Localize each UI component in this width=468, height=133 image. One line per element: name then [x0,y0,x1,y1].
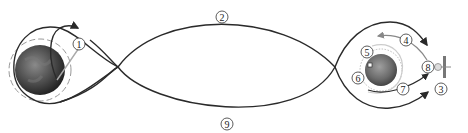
label-9: 9 [221,118,233,130]
svg-text:2: 2 [220,12,225,23]
label-5: 5 [361,46,373,58]
transfer-upper-arc [118,24,335,67]
label-3: 3 [435,83,447,95]
svg-text:1: 1 [77,39,82,50]
transfer-cross-upper [90,40,118,67]
trajectory-diagram: 1 2 3 4 5 6 7 8 9 [0,0,468,133]
moon-body [365,54,397,86]
svg-text:3: 3 [439,84,444,95]
earth-body [15,45,65,95]
label-2: 2 [216,11,228,23]
label-4: 4 [400,34,412,46]
svg-text:8: 8 [426,62,431,73]
label-8: 8 [422,61,434,73]
lander-marker [368,63,372,67]
svg-text:7: 7 [401,84,406,95]
transfer-lower-arc [60,67,335,107]
label-7: 7 [397,83,409,95]
svg-text:5: 5 [365,47,370,58]
relay-satellite-icon [435,56,452,78]
svg-text:6: 6 [356,73,361,84]
label-1: 1 [73,38,85,50]
label-6: 6 [352,72,364,84]
svg-text:9: 9 [225,119,230,130]
svg-text:4: 4 [404,35,409,46]
